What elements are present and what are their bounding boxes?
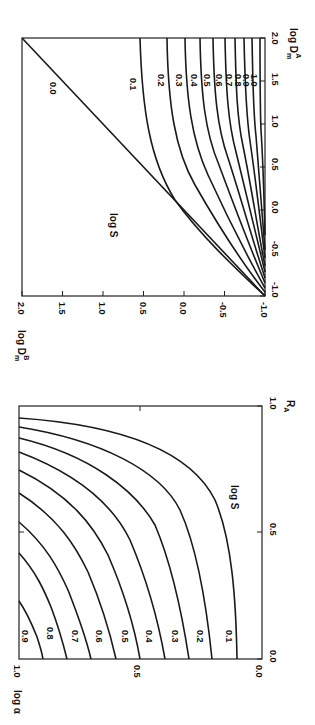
curve-0.4 [19, 452, 165, 659]
bottom-x-tick-labels: 0.0 0.5 1.0 [268, 397, 278, 663]
top-x-axis-label: log DmA [286, 28, 302, 59]
svg-text:log DmB: log DmB [14, 330, 30, 361]
top-x-tick-labels: -1.0 -0.5 0.0 0.5 1.0 1.5 2.0 [270, 32, 280, 298]
figure: 0.0 0.1 0.2 0.3 0.4 0.5 0.6 0.7 0.8 0.9 … [0, 0, 315, 725]
svg-text:0.9: 0.9 [20, 630, 30, 643]
svg-text:-1.0: -1.0 [270, 282, 280, 298]
svg-text:log DmA: log DmA [286, 28, 302, 59]
svg-text:0.4: 0.4 [144, 630, 154, 643]
svg-text:0.5: 0.5 [132, 665, 142, 678]
top-y-tick-labels: 2.0 1.5 1.0 0.5 0.0 -0.5 -1.0 [16, 302, 269, 318]
bottom-y-tick-labels: 1.0 0.5 0.0 [12, 665, 264, 678]
bottom-curves [19, 418, 237, 659]
svg-text:0.4: 0.4 [189, 74, 199, 87]
svg-text:1.0: 1.0 [12, 665, 22, 678]
svg-text:1.0: 1.0 [270, 115, 280, 128]
bottom-curve-labels: 0.9 0.8 0.7 0.6 0.5 0.4 0.3 0.2 0.1 [20, 627, 234, 643]
svg-text:1.0: 1.0 [249, 74, 259, 87]
svg-text:0.5: 0.5 [268, 523, 278, 536]
svg-text:0.5: 0.5 [120, 630, 130, 643]
svg-text:0.7: 0.7 [224, 74, 234, 87]
bottom-x-axis-label: RA [283, 400, 296, 412]
svg-text:0.5: 0.5 [138, 302, 148, 315]
svg-text:0.3: 0.3 [174, 74, 184, 87]
svg-text:0.5: 0.5 [270, 158, 280, 171]
svg-text:2.0: 2.0 [270, 32, 280, 45]
top-chart: 0.0 0.1 0.2 0.3 0.4 0.5 0.6 0.7 0.8 0.9 … [14, 28, 302, 361]
svg-text:-0.5: -0.5 [270, 241, 280, 257]
svg-text:0.6: 0.6 [214, 74, 224, 87]
svg-text:1.0: 1.0 [97, 302, 107, 315]
top-y-axis-label: log DmB [14, 330, 30, 361]
svg-text:0.0: 0.0 [268, 650, 278, 663]
svg-text:0.8: 0.8 [45, 627, 55, 640]
svg-text:0.0: 0.0 [270, 201, 280, 214]
bottom-annotation-log-s: log S [229, 485, 240, 510]
svg-text:0.3: 0.3 [170, 630, 180, 643]
svg-text:RA: RA [283, 400, 296, 412]
svg-text:0.2: 0.2 [195, 630, 205, 643]
curve-0.9 [252, 38, 265, 250]
curve-0.8 [19, 553, 67, 659]
svg-text:1.0: 1.0 [268, 397, 278, 410]
svg-text:0.0: 0.0 [178, 302, 188, 315]
svg-text:-1.0: -1.0 [259, 302, 269, 318]
svg-text:0.1: 0.1 [224, 630, 234, 643]
top-y-ticks [22, 291, 265, 296]
svg-text:0.6: 0.6 [94, 630, 104, 643]
svg-text:0.5: 0.5 [202, 74, 212, 87]
svg-text:1.5: 1.5 [270, 73, 280, 86]
bottom-chart: 0.9 0.8 0.7 0.6 0.5 0.4 0.3 0.2 0.1 log … [12, 397, 296, 715]
bottom-y-axis-label: log α [12, 690, 23, 715]
svg-text:0.0: 0.0 [48, 82, 58, 95]
svg-text:2.0: 2.0 [16, 302, 26, 315]
svg-text:1.5: 1.5 [57, 302, 67, 315]
bottom-x-ticks [257, 406, 262, 659]
svg-text:-0.5: -0.5 [218, 302, 228, 318]
top-annotation-log-s: log S [108, 213, 119, 238]
svg-text:0.7: 0.7 [70, 630, 80, 643]
svg-text:0.0: 0.0 [254, 665, 264, 678]
svg-text:0.1: 0.1 [128, 78, 138, 91]
svg-text:0.2: 0.2 [156, 74, 166, 87]
curve-0.1 [19, 418, 237, 659]
